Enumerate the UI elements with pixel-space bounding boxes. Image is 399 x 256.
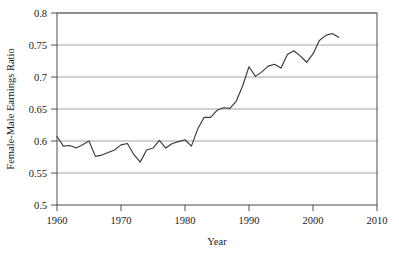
xtick-label-2010: 2010 <box>367 215 388 226</box>
y-axis-tick-labels: 0.8 0.75 0.7 0.65 0.6 0.55 0.5 <box>29 8 47 211</box>
xtick-label-1990: 1990 <box>239 215 260 226</box>
xtick-label-1960: 1960 <box>47 215 68 226</box>
xtick-label-2000: 2000 <box>303 215 324 226</box>
xtick-label-1980: 1980 <box>175 215 196 226</box>
gridlines <box>57 13 377 173</box>
x-axis-title: Year <box>207 236 227 247</box>
chart-figure: 0.8 0.75 0.7 0.65 0.6 0.55 0.5 1960 1970… <box>0 0 399 256</box>
ytick-label-0.75: 0.75 <box>29 40 47 51</box>
x-axis-tick-labels: 1960 1970 1980 1990 2000 2010 <box>47 215 388 226</box>
ytick-label-0.6: 0.6 <box>34 136 47 147</box>
y-axis-ticks <box>51 13 57 205</box>
ytick-label-0.7: 0.7 <box>34 72 47 83</box>
y-axis-title: Female-Male Earnings Ratio <box>5 48 16 169</box>
ytick-label-0.65: 0.65 <box>29 104 47 115</box>
x-axis-ticks <box>57 205 377 211</box>
ytick-label-0.5: 0.5 <box>34 200 47 211</box>
xtick-label-1970: 1970 <box>111 215 132 226</box>
data-line-female-male-earnings-ratio <box>57 33 339 162</box>
ytick-label-0.55: 0.55 <box>29 168 47 179</box>
ytick-label-0.8: 0.8 <box>34 8 47 19</box>
line-chart: 0.8 0.75 0.7 0.65 0.6 0.55 0.5 1960 1970… <box>0 0 399 256</box>
